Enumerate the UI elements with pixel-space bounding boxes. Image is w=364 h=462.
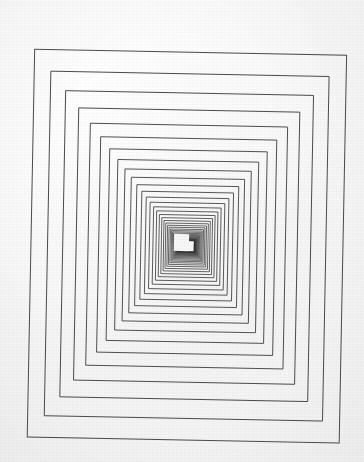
tunnel-core-highlight <box>174 234 189 251</box>
concentric-rectangles-drawing <box>0 0 364 462</box>
artwork-canvas: Concentric Rectangles Tunnel Illusion in… <box>0 0 364 462</box>
